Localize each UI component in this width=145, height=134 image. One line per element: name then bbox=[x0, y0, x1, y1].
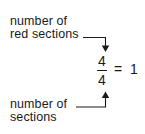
denominator: 4 bbox=[96, 73, 108, 87]
denominator-label-line2: sections bbox=[10, 111, 67, 124]
fraction-bar bbox=[97, 70, 107, 71]
arrow-to-numerator-icon bbox=[83, 38, 109, 53]
equals-sign: = bbox=[114, 61, 122, 77]
arrow-to-denominator-icon bbox=[76, 92, 109, 108]
numerator: 4 bbox=[96, 54, 108, 68]
equation-result: 1 bbox=[130, 61, 138, 77]
fraction: 4 4 bbox=[96, 54, 108, 87]
denominator-label: number of sections bbox=[10, 98, 67, 124]
